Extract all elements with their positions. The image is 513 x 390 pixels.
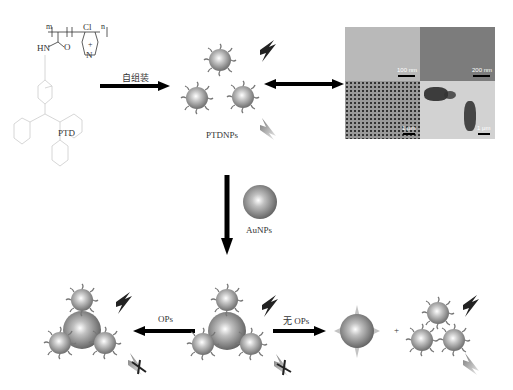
free-ptdnps [406, 297, 470, 356]
label-self-assembly: 自组装 [122, 71, 149, 84]
arrow-no-ops [314, 326, 326, 336]
label-aunps: AuNPs [246, 225, 272, 235]
tem-panel-top-right: 200 nm [420, 27, 495, 81]
label-ptdnps: PTDNPs [206, 130, 238, 140]
arrow-self-assembly [158, 81, 170, 91]
label-no-ops: 无 OPs [283, 314, 309, 327]
structure-o: O [64, 42, 71, 52]
complex-center [187, 284, 267, 360]
ptd-structure [14, 27, 107, 166]
quenched-icon-left [128, 353, 146, 375]
tem-panel-bottom-left: 1 μm [345, 81, 420, 139]
label-ops: OPs [158, 314, 173, 324]
complex-with-ops [44, 284, 121, 359]
fluorescence-on-icon-left [116, 292, 132, 314]
double-arrow [332, 79, 344, 89]
structure-cl: Cl [83, 22, 92, 32]
arrow-ops [133, 326, 145, 336]
arrow-down [221, 238, 233, 255]
label-ptd: PTD [58, 128, 75, 138]
fluorescence-on-icon-right [463, 295, 479, 317]
ptdnps-cluster [181, 44, 259, 114]
fluorescence-on-icon-center [262, 295, 278, 317]
fluorescence-faded-icon [260, 118, 276, 140]
structure-hn: HN [37, 43, 50, 53]
aunp-sphere [243, 185, 277, 219]
structure-bracket-m: m [46, 22, 52, 31]
structure-plus: + [88, 40, 93, 49]
structure-n: N [86, 50, 93, 60]
tem-panel-top-left: 100 nm [345, 27, 420, 81]
structure-bracket-n: n [101, 22, 105, 31]
fluorescence-faded-icon-right [463, 353, 479, 375]
label-plus: + [394, 325, 399, 335]
tem-panel-bottom-right: 1 μm [420, 81, 495, 139]
fluorescence-on-icon [260, 40, 276, 62]
aggregated-aunp [334, 305, 380, 358]
quenched-icon-center [274, 354, 291, 376]
